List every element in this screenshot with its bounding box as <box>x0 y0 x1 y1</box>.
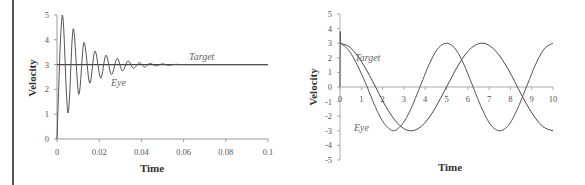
right-y-tick-label: -1 <box>325 97 332 107</box>
right-y-tick-label: 3 <box>328 38 332 48</box>
right-y-tick-label: -2 <box>325 111 332 121</box>
right-y-axis-label: Velocity <box>307 68 319 106</box>
right-x-tick-label: 9 <box>530 94 534 104</box>
right-x-tick-label: 0 <box>338 94 342 104</box>
right-eye-line <box>340 32 553 131</box>
right-y-tick-label: -4 <box>325 140 333 150</box>
right-eye-label: Eye <box>353 122 370 133</box>
right-target-label: Target <box>355 52 381 63</box>
right-y-tick-label: 4 <box>328 24 333 34</box>
right-x-tick-label: 5 <box>444 94 448 104</box>
right-x-tick-label: 4 <box>423 94 428 104</box>
right-x-tick-label: 8 <box>508 94 512 104</box>
right-x-tick-label: 6 <box>466 94 470 104</box>
chart-right-velocity-sine: 543210-1-2-3-4-5012345678910 Target Eye … <box>0 0 585 185</box>
right-x-tick-label: 7 <box>487 94 491 104</box>
right-y-tick-label: 1 <box>328 67 332 77</box>
right-x-tick-label: 3 <box>402 94 406 104</box>
right-y-tick-label: 2 <box>328 53 332 63</box>
right-y-tick-label: 0 <box>328 82 332 92</box>
right-axes: 543210-1-2-3-4-5012345678910 <box>325 9 557 165</box>
right-y-tick-label: -5 <box>325 155 332 165</box>
right-x-tick-label: 1 <box>359 94 363 104</box>
right-x-axis-label: Time <box>438 161 462 173</box>
right-x-tick-label: 10 <box>549 94 558 104</box>
right-y-tick-label: 5 <box>328 9 332 19</box>
right-y-tick-label: -3 <box>325 126 332 136</box>
